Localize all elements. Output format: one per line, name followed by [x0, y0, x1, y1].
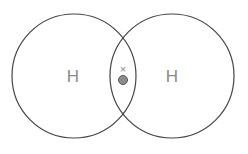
electron-dot-icon: [119, 76, 128, 85]
atom-label-right: H: [166, 67, 178, 86]
electron-cross-icon: ×: [120, 63, 126, 75]
covalent-bond-diagram: H H ×: [0, 0, 248, 154]
atom-label-left: H: [67, 67, 79, 86]
